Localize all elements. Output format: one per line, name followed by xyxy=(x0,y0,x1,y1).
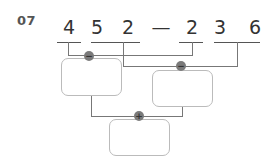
connector xyxy=(237,42,238,67)
digit-4: 4 xyxy=(59,17,79,37)
digit-6: 6 xyxy=(245,17,265,37)
answer-box-2[interactable] xyxy=(152,70,213,107)
connector xyxy=(68,42,69,56)
minus-icon: − xyxy=(84,51,94,61)
answer-box-1[interactable] xyxy=(61,58,122,96)
digit-3: 3 xyxy=(210,17,230,37)
digit-2b: 2 xyxy=(182,17,202,37)
connector xyxy=(91,95,92,117)
digit-5: 5 xyxy=(87,17,107,37)
group-line-2 xyxy=(179,42,203,43)
digit-2: 2 xyxy=(118,17,138,37)
connector xyxy=(192,42,193,56)
answer-box-3[interactable] xyxy=(109,119,170,156)
group-line-4 xyxy=(57,42,81,43)
problem-number: 07 xyxy=(17,13,36,28)
plus-icon: + xyxy=(134,111,144,121)
minus-icon: − xyxy=(176,61,186,71)
group-line-52 xyxy=(91,42,140,43)
operator-minus: — xyxy=(151,17,171,37)
connector xyxy=(123,42,124,67)
